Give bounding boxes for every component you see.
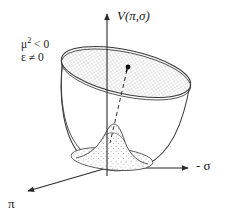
axis-label-sigma: - σ — [196, 158, 211, 174]
potential-surface-drawing — [0, 0, 230, 218]
axis-label-v: V(π,σ) — [117, 8, 150, 24]
condition-epsilon: ε ≠ 0 — [21, 51, 49, 64]
condition-mu-relation: < 0 — [34, 38, 49, 50]
mexican-hat-potential-figure: μ2 < 0 ε ≠ 0 V(π,σ) - σ π — [0, 0, 230, 218]
condition-mu-squared: μ2 < 0 — [21, 34, 49, 51]
condition-annotations: μ2 < 0 ε ≠ 0 — [21, 34, 49, 64]
axis-pi — [28, 168, 107, 191]
axis-label-pi: π — [8, 196, 15, 212]
condition-mu-exponent: 2 — [27, 36, 31, 45]
